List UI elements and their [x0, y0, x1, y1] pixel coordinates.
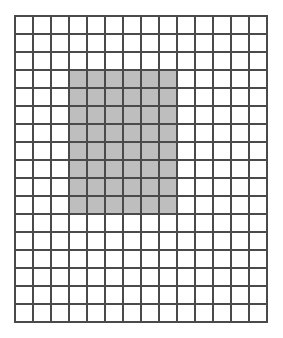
grid-cell-empty — [15, 88, 33, 106]
grid-cell-empty — [69, 268, 87, 286]
grid-cell-empty — [105, 286, 123, 304]
grid-cell-empty — [69, 16, 87, 34]
grid-cell-empty — [33, 124, 51, 142]
grid-cell-empty — [213, 250, 231, 268]
grid-cell-shaded — [123, 196, 141, 214]
grid-cell-empty — [195, 214, 213, 232]
grid-cell-empty — [213, 214, 231, 232]
grid-cell-shaded — [69, 160, 87, 178]
grid-cell-empty — [159, 214, 177, 232]
grid-cell-empty — [15, 286, 33, 304]
grid-cell-empty — [177, 160, 195, 178]
grid-cell-empty — [69, 52, 87, 70]
grid-cell-empty — [51, 304, 69, 322]
grid-cell-empty — [69, 304, 87, 322]
grid-cell-empty — [231, 106, 249, 124]
grid-cell-shaded — [69, 178, 87, 196]
grid-cell-shaded — [141, 160, 159, 178]
grid-cell-empty — [177, 178, 195, 196]
grid-cell-empty — [213, 52, 231, 70]
grid-cell-empty — [123, 214, 141, 232]
grid-cell-empty — [123, 250, 141, 268]
grid-cell-empty — [213, 88, 231, 106]
grid-cell-shaded — [159, 178, 177, 196]
grid-cell-shaded — [105, 88, 123, 106]
grid-cell-empty — [195, 52, 213, 70]
grid-cell-empty — [15, 142, 33, 160]
grid-cell-empty — [69, 214, 87, 232]
grid-cell-empty — [231, 88, 249, 106]
grid-cell-empty — [15, 70, 33, 88]
grid-cell-empty — [231, 286, 249, 304]
grid-cell-shaded — [105, 196, 123, 214]
grid-cell-empty — [249, 160, 267, 178]
grid-cell-empty — [141, 52, 159, 70]
grid-cell-empty — [51, 178, 69, 196]
grid-cell-shaded — [87, 106, 105, 124]
grid-cell-empty — [33, 232, 51, 250]
grid-cell-shaded — [159, 70, 177, 88]
grid-cell-empty — [15, 124, 33, 142]
grid-cell-empty — [213, 142, 231, 160]
grid-cell-empty — [213, 16, 231, 34]
grid-cell-empty — [33, 142, 51, 160]
grid-cell-empty — [177, 196, 195, 214]
grid-cell-empty — [15, 304, 33, 322]
grid-cell-empty — [159, 268, 177, 286]
grid-cell-empty — [177, 142, 195, 160]
grid-cell-empty — [195, 124, 213, 142]
grid-cell-empty — [249, 106, 267, 124]
grid-cell-empty — [141, 34, 159, 52]
grid-cell-empty — [105, 268, 123, 286]
grid-cell-shaded — [105, 178, 123, 196]
grid-cell-empty — [33, 34, 51, 52]
grid-cell-empty — [213, 34, 231, 52]
grid-cell-shaded — [105, 106, 123, 124]
grid-cell-empty — [213, 178, 231, 196]
grid-cell-empty — [15, 178, 33, 196]
grid-cell-empty — [51, 214, 69, 232]
grid-cell-empty — [51, 52, 69, 70]
grid-cell-empty — [177, 232, 195, 250]
grid-cell-empty — [231, 160, 249, 178]
grid-cell-empty — [195, 286, 213, 304]
grid-cell-shaded — [123, 70, 141, 88]
grid-cell-empty — [105, 52, 123, 70]
grid-cell-empty — [177, 88, 195, 106]
grid-cell-shaded — [123, 88, 141, 106]
grid-cell-empty — [69, 232, 87, 250]
grid-cell-shaded — [69, 106, 87, 124]
grid-cell-empty — [33, 16, 51, 34]
grid-cell-empty — [33, 106, 51, 124]
grid-cell-empty — [33, 250, 51, 268]
grid-cell-empty — [87, 250, 105, 268]
grid-cell-shaded — [159, 160, 177, 178]
grid-cell-empty — [195, 160, 213, 178]
grid-cell-empty — [87, 286, 105, 304]
grid-cell-empty — [69, 250, 87, 268]
grid-cell-empty — [195, 250, 213, 268]
grid-cell-empty — [15, 232, 33, 250]
grid-cell-empty — [51, 70, 69, 88]
grid-cell-empty — [105, 34, 123, 52]
grid-cell-empty — [51, 196, 69, 214]
grid-cell-empty — [159, 52, 177, 70]
grid-cell-shaded — [105, 142, 123, 160]
grid-cell-empty — [177, 268, 195, 286]
grid-cell-empty — [105, 232, 123, 250]
grid-cell-empty — [249, 214, 267, 232]
grid-cell-empty — [213, 196, 231, 214]
grid-cell-empty — [51, 250, 69, 268]
grid-cell-shaded — [123, 142, 141, 160]
grid-cell-empty — [231, 250, 249, 268]
grid-cell-empty — [231, 178, 249, 196]
grid-cell-empty — [177, 124, 195, 142]
grid-cell-empty — [195, 304, 213, 322]
grid-cell-empty — [195, 178, 213, 196]
grid-cell-empty — [141, 16, 159, 34]
grid-cell-empty — [51, 88, 69, 106]
grid-cell-empty — [249, 34, 267, 52]
grid-cell-shaded — [123, 106, 141, 124]
grid-cell-shaded — [69, 142, 87, 160]
grid-cell-empty — [249, 178, 267, 196]
